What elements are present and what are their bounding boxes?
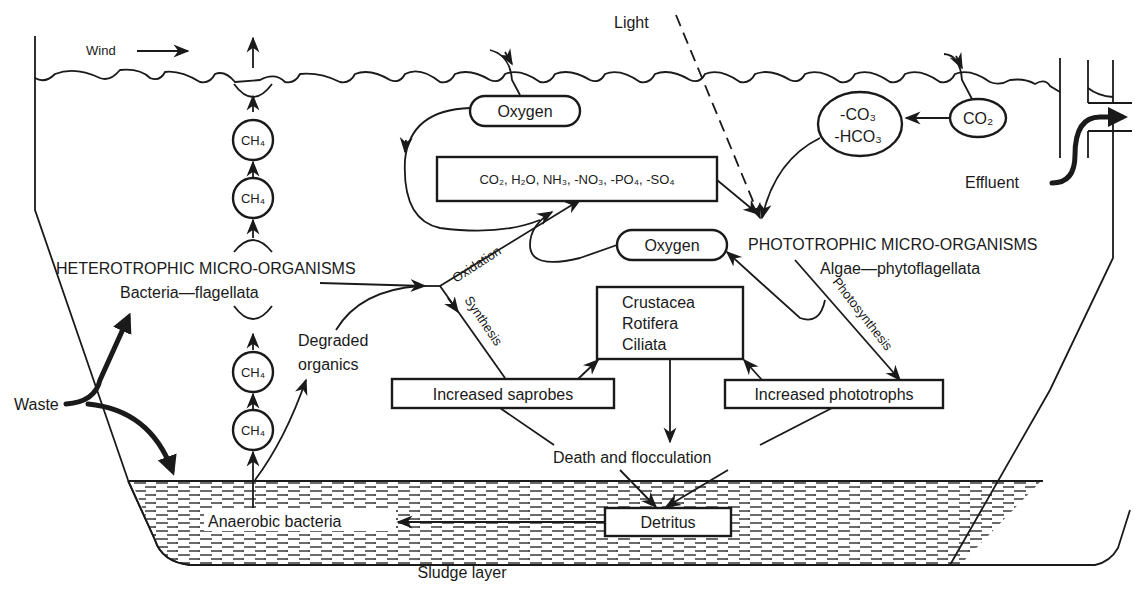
anaerobic-label: Anaerobic bacteria <box>208 513 342 530</box>
wind-label: Wind <box>86 43 116 58</box>
svg-text:CH₄: CH₄ <box>241 191 265 206</box>
light-label: Light <box>614 14 649 31</box>
sludge-label: Sludge layer <box>418 564 508 581</box>
grazer-crustacea: Crustacea <box>622 294 695 311</box>
saprobes-to-grazers-arrow <box>578 360 598 379</box>
detritus-label: Detritus <box>640 514 695 531</box>
svg-text:CH₄: CH₄ <box>241 365 265 380</box>
increased-saprobes-label: Increased saprobes <box>433 386 574 403</box>
synthesis-arrowhead <box>448 298 458 312</box>
heterotrophic-sub-label: Bacteria—flagellata <box>120 284 259 301</box>
co2-label: CO₂ <box>963 110 993 127</box>
products-label: CO₂, H₂O, NH₃, -NO₃, -PO₄, -SO₄ <box>479 172 674 187</box>
oxygen-top-label: Oxygen <box>497 103 552 120</box>
phototrophic-label: PHOTOTROPHIC MICRO-ORGANISMS <box>748 236 1038 253</box>
heterotrophic-to-junction-arrow <box>320 283 425 286</box>
svg-text:CH₄: CH₄ <box>241 423 265 438</box>
effluent-arrow <box>1052 117 1122 183</box>
effluent-label: Effluent <box>965 174 1020 191</box>
svg-text:CH₄: CH₄ <box>241 133 265 148</box>
oxygen-mid-to-oxidation-arrow <box>530 212 617 262</box>
lagoon-diagram: Effluent Wind CH₄ CH₄ CH₄ CH₄ HETEROTROP… <box>0 0 1146 606</box>
waste-label: Waste <box>14 396 59 413</box>
carbonate-ellipse <box>818 92 902 156</box>
grazer-rotifera: Rotifera <box>622 315 678 332</box>
saprobes-to-death-line <box>500 408 554 445</box>
waste-to-sludge-arrow <box>88 404 172 470</box>
phototrophs-to-grazers-arrow <box>744 360 762 380</box>
grazer-ciliata: Ciliata <box>622 336 667 353</box>
photosynthesis-label: Photosynthesis <box>830 275 896 354</box>
death-flocculation-label: Death and flocculation <box>553 449 711 466</box>
oxygen-mid-label: Oxygen <box>644 237 699 254</box>
outlet-structure <box>1060 58 1132 158</box>
oxygen-flow-arrowhead <box>405 140 406 152</box>
degraded-label-2: organics <box>298 356 358 373</box>
waste-to-heterotrophs-arrow <box>66 318 128 404</box>
oxidation-label: Oxidation <box>449 243 503 285</box>
phototrophic-sub-label: Algae—phytoflagellata <box>820 260 980 277</box>
carbonate-label-1: -CO₃ <box>840 106 876 123</box>
degraded-label-1: Degraded <box>298 332 368 349</box>
water-surface <box>35 70 1060 92</box>
carbonate-to-phototrophs-arrow <box>762 138 820 218</box>
heterotrophic-label: HETEROTROPHIC MICRO-ORGANISMS <box>56 260 356 277</box>
synthesis-label: Synthesis <box>462 293 506 349</box>
degraded-to-junction-line <box>336 286 420 330</box>
increased-phototrophs-label: Increased phototrophs <box>754 386 913 403</box>
carbonate-label-2: -HCO₃ <box>834 128 881 145</box>
phototrophs-to-death-line <box>760 408 832 445</box>
